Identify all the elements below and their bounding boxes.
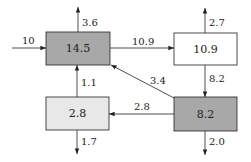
flow-c-out-bottom-label: 1.7 <box>81 136 97 147</box>
node-c-value: 2.8 <box>69 107 87 120</box>
node-d-value: 8.2 <box>197 108 215 121</box>
flow-d-to-a-label: 3.4 <box>150 75 166 86</box>
flow-input-a-label: 10 <box>22 35 35 46</box>
flow-c-to-a-label: 1.1 <box>81 77 97 88</box>
flow-d-to-c-label: 2.8 <box>134 101 150 112</box>
flow-diagram: 14.5 10.9 2.8 8.2 10 3.6 10.9 2.7 8.2 3.… <box>0 0 251 162</box>
flow-b-to-d-label: 8.2 <box>209 73 225 84</box>
node-a-value: 14.5 <box>66 42 91 55</box>
flow-b-out-top-label: 2.7 <box>209 17 225 28</box>
flow-a-to-b-label: 10.9 <box>132 36 154 47</box>
node-b-value: 10.9 <box>193 43 218 56</box>
flow-a-out-top-label: 3.6 <box>82 17 98 28</box>
flow-d-out-bottom-label: 2.0 <box>209 136 225 147</box>
